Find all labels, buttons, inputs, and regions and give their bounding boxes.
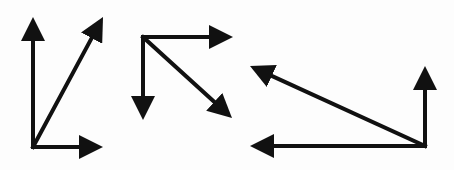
vector-arrows-figure xyxy=(0,0,454,170)
arrow-diagonal-up-right-icon xyxy=(33,23,100,147)
vector-group-1 xyxy=(33,23,100,147)
arrow-diagonal-down-right-icon xyxy=(143,37,227,113)
arrow-diagonal-up-left-icon xyxy=(257,69,425,146)
vector-group-3 xyxy=(257,69,425,146)
vector-group-2 xyxy=(143,37,227,113)
vector-diagram-canvas xyxy=(0,0,454,170)
